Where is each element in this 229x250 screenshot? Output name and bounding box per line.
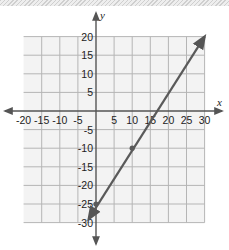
y-tick-label: -30: [78, 217, 93, 229]
x-tick-label: -20: [16, 114, 31, 126]
x-tick-label: 25: [181, 114, 193, 126]
y-tick-label: 5: [87, 86, 93, 98]
x-tick-label: 20: [163, 114, 175, 126]
x-tick-label: 5: [111, 114, 117, 126]
y-tick-label: -10: [78, 142, 93, 154]
y-tick-label: -5: [84, 124, 93, 136]
x-tick-label: -10: [52, 114, 67, 126]
x-tick-label: 10: [126, 114, 138, 126]
coordinate-plane: -20-15-10-5510152025302015105-5-10-15-20…: [0, 0, 229, 250]
y-tick-label: 10: [81, 68, 93, 80]
x-tick-label: -5: [73, 114, 82, 126]
x-tick-label: 30: [199, 114, 211, 126]
y-tick-label: -25: [78, 198, 93, 210]
data-point: [93, 201, 98, 206]
y-tick-label: 15: [81, 49, 93, 61]
data-point: [130, 146, 135, 151]
y-tick-label: -15: [78, 161, 93, 173]
y-axis-label: y: [99, 9, 105, 21]
y-tick-label: -20: [78, 179, 93, 191]
y-tick-label: 20: [81, 31, 93, 43]
x-axis-label: x: [216, 96, 222, 108]
x-tick-label: -15: [34, 114, 49, 126]
